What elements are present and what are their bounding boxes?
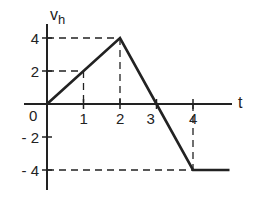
y-tick-label: 2: [31, 63, 39, 80]
y-tick-label: 4: [31, 30, 39, 47]
x-axis-label: t: [238, 94, 243, 111]
y-tick-label: - 2: [21, 129, 39, 146]
x-tick-label: 2: [116, 110, 124, 127]
chart-svg: 123442- 2- 4 vh t 0: [0, 0, 256, 204]
x-tick-label: 3: [147, 110, 155, 127]
y-tick-label: - 4: [21, 162, 39, 179]
axes: [24, 24, 232, 190]
chart: 123442- 2- 4 vh t 0: [0, 0, 256, 204]
origin-label: 0: [29, 107, 37, 124]
x-tick-label: 1: [80, 110, 88, 127]
x-tick-label: 4: [189, 110, 197, 127]
y-axis-label: vh: [50, 6, 65, 27]
